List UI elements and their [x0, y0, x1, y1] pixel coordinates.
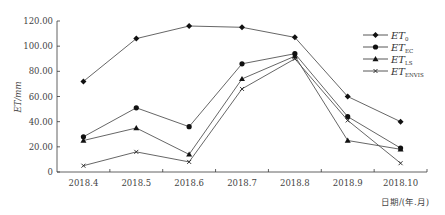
- y-axis-title: ET/mm: [13, 82, 23, 114]
- legend-label: ETEC: [390, 42, 413, 54]
- triangle-marker-icon: [345, 138, 351, 143]
- series-et-ls: [80, 53, 403, 156]
- y-tick-label: 80.00: [29, 66, 53, 76]
- circle-marker-icon: [187, 124, 192, 129]
- circle-marker-icon: [134, 105, 139, 110]
- series-layer: [80, 23, 403, 168]
- diamond-marker-icon: [398, 119, 404, 125]
- x-marker-icon: [399, 161, 403, 165]
- series-line: [83, 54, 400, 148]
- legend-item-et0: ET0: [363, 30, 409, 42]
- diamond-marker-icon: [373, 32, 379, 38]
- et-line-chart: 020.0040.0060.0080.00100.00120.00 2018.4…: [0, 0, 445, 215]
- series-et0: [80, 23, 403, 125]
- y-tick-label: 20.00: [29, 142, 53, 152]
- x-tick-label: 2018.7: [227, 178, 257, 188]
- y-tick-label: 40.00: [29, 117, 53, 127]
- y-tick-label: 100.00: [23, 41, 53, 51]
- x-axis: 2018.42018.52018.62018.72018.82018.92018…: [57, 169, 427, 188]
- x-marker-icon: [240, 87, 244, 91]
- x-tick-label: 2018.4: [69, 178, 99, 188]
- x-tick-label: 2018.9: [333, 178, 363, 188]
- y-axis: 020.0040.0060.0080.00100.00120.00: [23, 16, 60, 177]
- x-tick-label: 2018.6: [174, 178, 204, 188]
- series-line: [83, 59, 400, 166]
- x-tick-label: 2018.10: [383, 178, 418, 188]
- series-et-envis: [81, 57, 402, 168]
- legend-item-et-ec: ETEC: [363, 42, 413, 54]
- legend-label: ET0: [390, 30, 409, 42]
- triangle-marker-icon: [133, 125, 139, 130]
- x-tick-label: 2018.5: [121, 178, 151, 188]
- legend-label: ETENVIS: [390, 66, 424, 78]
- circle-marker-icon: [373, 44, 378, 49]
- series-line: [83, 56, 400, 154]
- legend-item-et-ls: ETLS: [363, 54, 413, 66]
- diamond-marker-icon: [186, 23, 192, 29]
- y-tick-label: 0: [48, 167, 53, 177]
- legend-item-et-envis: ETENVIS: [363, 66, 424, 78]
- x-axis-title: 日期/(年.月): [381, 197, 429, 207]
- legend-label: ETLS: [390, 54, 413, 66]
- triangle-marker-icon: [186, 151, 192, 156]
- legend: ET0ETECETLSETENVIS: [363, 30, 424, 78]
- y-tick-label: 60.00: [29, 92, 53, 102]
- series-et-ec: [81, 51, 403, 151]
- y-tick-label: 120.00: [23, 16, 53, 26]
- series-line: [83, 26, 400, 122]
- diamond-marker-icon: [239, 24, 245, 30]
- circle-marker-icon: [239, 61, 244, 66]
- x-tick-label: 2018.8: [280, 178, 310, 188]
